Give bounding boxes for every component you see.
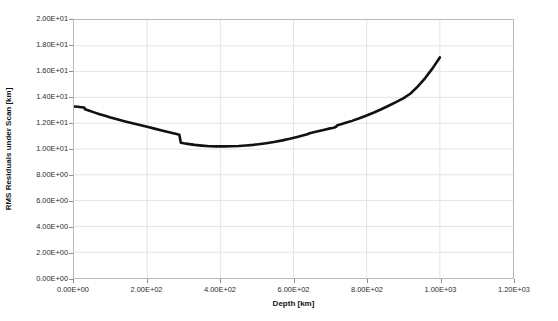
- y-tick-mark: [69, 149, 73, 150]
- x-axis-title: Depth [km]: [73, 299, 514, 308]
- y-tick-mark: [69, 19, 73, 20]
- axis-ticks: 0.00E+002.00E+004.00E+006.00E+008.00E+00…: [0, 0, 558, 321]
- y-tick-mark: [69, 227, 73, 228]
- x-tick-mark: [294, 279, 295, 283]
- x-tick-label: 0.00E+00: [38, 286, 108, 294]
- x-tick-label: 2.00E+02: [112, 286, 182, 294]
- x-tick-mark: [367, 279, 368, 283]
- x-tick-label: 1.00E+03: [406, 286, 476, 294]
- x-tick-mark: [147, 279, 148, 283]
- y-tick-label: 2.00E+01: [0, 15, 68, 23]
- y-tick-mark: [69, 71, 73, 72]
- y-tick-label: 1.80E+01: [0, 41, 68, 49]
- x-tick-mark: [220, 279, 221, 283]
- y-tick-mark: [69, 123, 73, 124]
- x-tick-mark: [514, 279, 515, 283]
- x-tick-mark: [441, 279, 442, 283]
- x-tick-label: 4.00E+02: [185, 286, 255, 294]
- y-tick-mark: [69, 97, 73, 98]
- x-tick-label: 1.20E+03: [479, 286, 549, 294]
- y-tick-mark: [69, 45, 73, 46]
- y-tick-label: 4.00E+00: [0, 223, 68, 231]
- chart-root: 0.00E+002.00E+004.00E+006.00E+008.00E+00…: [0, 0, 558, 321]
- x-tick-label: 8.00E+02: [332, 286, 402, 294]
- x-tick-mark: [73, 279, 74, 283]
- y-tick-label: 0.00E+00: [0, 275, 68, 283]
- y-tick-mark: [69, 175, 73, 176]
- y-tick-label: 1.60E+01: [0, 67, 68, 75]
- x-tick-label: 6.00E+02: [259, 286, 329, 294]
- y-tick-mark: [69, 253, 73, 254]
- y-tick-mark: [69, 201, 73, 202]
- y-tick-label: 2.00E+00: [0, 249, 68, 257]
- y-axis-title: RMS Residuals under Scan [km]: [4, 88, 13, 211]
